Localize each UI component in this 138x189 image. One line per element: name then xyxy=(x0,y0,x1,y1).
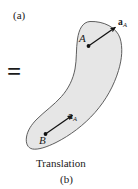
point-label-a: A xyxy=(79,33,86,44)
panel-label-a: (a) xyxy=(13,10,25,21)
figure-caption: Translation xyxy=(36,158,86,169)
figure-container: (a) = A B aA aA Translation (b) xyxy=(0,0,138,189)
vector-label-a-at-point-a: aA xyxy=(118,18,127,29)
point-label-b: B xyxy=(39,135,46,146)
vector-subscript-bottom: A xyxy=(73,115,77,122)
rigid-body-blob xyxy=(26,21,122,149)
vector-subscript-top: A xyxy=(123,21,127,28)
panel-label-b: (b) xyxy=(60,174,73,185)
point-marker-a xyxy=(87,44,91,48)
vector-label-a-at-point-b: aA xyxy=(68,112,77,123)
equals-sign: = xyxy=(7,59,21,84)
